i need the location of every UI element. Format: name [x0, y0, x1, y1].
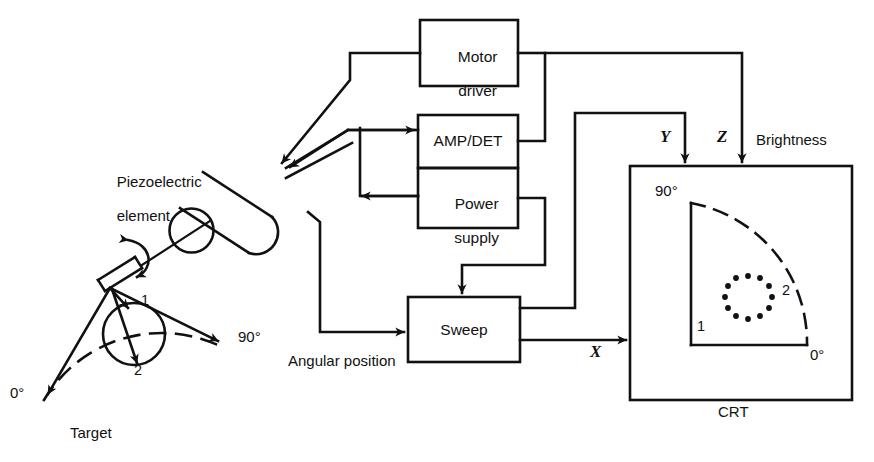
power-supply-line1: Power [455, 195, 499, 212]
wire-transducer-to-ampdet-b [290, 130, 418, 167]
crt-marker-1-label: 1 [697, 318, 705, 335]
beam-marker-2-label: 2 [134, 362, 142, 379]
crt-marker-2-label: 2 [782, 282, 790, 299]
motor-driver-line1: Motor [458, 48, 498, 65]
crt-target-echo-dots [722, 273, 775, 322]
block-label-motor-driver: Motor driver [420, 31, 518, 116]
block-label-amp-det: AMP/DET [418, 132, 518, 149]
piezo-label-line2: element [117, 207, 170, 224]
scan-angle-90-label: 90° [238, 328, 261, 345]
angular-position-label: Angular position [288, 352, 396, 369]
motor-driver-line2: driver [458, 82, 497, 99]
crt-angle-0-label: 0° [810, 346, 824, 363]
wire-angular-position-to-sweep [308, 212, 404, 332]
signal-x-label: X [590, 343, 601, 360]
scan-ray-0deg [48, 288, 110, 394]
block-label-power-supply: Power supply [418, 178, 518, 263]
diagram-canvas: Motor driver AMP/DET Power supply Sweep … [0, 0, 874, 462]
piezoelectric-element-label: Piezoelectric element [100, 156, 202, 241]
signal-y-label: Y [660, 128, 670, 145]
wire-ampdet-to-crt-z [518, 53, 742, 162]
wire-transducer-to-ampdet [290, 130, 418, 167]
scan-angle-0-label: 0° [10, 384, 24, 401]
piezo-label-line1: Piezoelectric [117, 173, 202, 190]
wire-powersupply-return [360, 128, 418, 196]
crt-angle-90-label: 90° [655, 182, 678, 199]
block-label-sweep: Sweep [408, 321, 520, 338]
brightness-label: Brightness [756, 131, 827, 148]
power-supply-line2: supply [454, 229, 499, 246]
wire-motordriver-to-transducer [282, 53, 420, 163]
crt-label: CRT [718, 403, 749, 420]
signal-z-label: Z [717, 128, 727, 145]
target-label: Target [70, 424, 112, 441]
oscillating-element [98, 257, 142, 291]
beam-marker-1-label: 1 [141, 292, 149, 309]
block-crt [630, 166, 852, 400]
